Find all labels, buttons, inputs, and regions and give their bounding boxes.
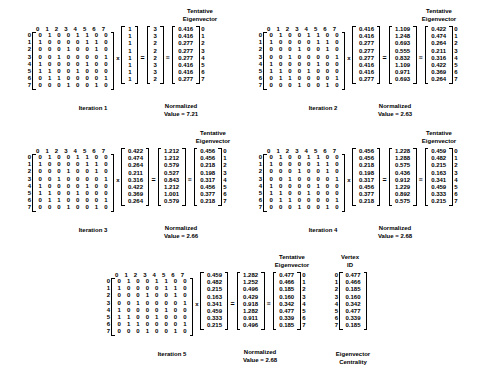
iteration-5-label: Iteration 5 bbox=[137, 351, 207, 358]
product-vector-cell: 1.248 bbox=[392, 33, 413, 40]
input-vector-5: 0.4590.4820.2150.1630.3410.4590.3330.215 bbox=[200, 272, 228, 330]
matrix-row-label: 0 bbox=[103, 278, 110, 285]
final-centrality-value: 0.466 bbox=[343, 279, 364, 286]
matrix-cell: 1 bbox=[267, 61, 276, 68]
input-vector-cell: 0.456 bbox=[356, 148, 377, 155]
normalized-amount-1: Value = 7.21 bbox=[148, 111, 214, 119]
matrix-cell: 0 bbox=[323, 61, 332, 68]
final-centrality-value: 0.342 bbox=[343, 301, 364, 308]
matrix-cell: 1 bbox=[161, 278, 170, 285]
te-header-line1-5: Tentative bbox=[261, 254, 323, 262]
tentative-eigenvector-cell: 0.277 bbox=[175, 55, 196, 62]
product-vector-cell: 2 bbox=[150, 48, 160, 55]
product-vector-cell: 0.429 bbox=[240, 294, 261, 301]
matrix-cell: 1 bbox=[92, 46, 101, 53]
tentative-eigenvector-cells-5: 0.4770.4660.1850.1600.3420.4770.3390.185 bbox=[276, 272, 297, 330]
adjacency-matrix-5: 01234567 01234567 0100110010000110000100… bbox=[103, 272, 193, 336]
matrix-cell: 0 bbox=[124, 328, 133, 335]
tentative-eigenvector-cell: 0.185 bbox=[276, 322, 297, 329]
adjacency-matrix-4: 01234567 01234567 0100110010000110000100… bbox=[255, 148, 345, 212]
matrix-cell: 1 bbox=[124, 314, 133, 321]
matrix-cell: 0 bbox=[285, 204, 294, 211]
matrix-cell: 0 bbox=[101, 46, 110, 53]
matrix-cell: 0 bbox=[64, 75, 73, 82]
matrix-row: 01001100 bbox=[267, 154, 342, 161]
matrix-row: 10000100 bbox=[267, 183, 342, 190]
approx-operator-4: ≡ bbox=[417, 176, 425, 183]
matrix-cell: 0 bbox=[73, 82, 82, 89]
matrix-cell: 0 bbox=[73, 161, 82, 168]
matrix-cell: 0 bbox=[304, 183, 313, 190]
matrix-cell: 0 bbox=[45, 46, 54, 53]
matrix-cell: 0 bbox=[323, 197, 332, 204]
matrix-cell: 0 bbox=[124, 292, 133, 299]
matrix-cell: 1 bbox=[313, 39, 322, 46]
matrix-row-label: 7 bbox=[24, 204, 31, 211]
matrix-row: 10000100 bbox=[36, 183, 111, 190]
matrix-cell: 0 bbox=[115, 328, 124, 335]
matrix-cell: 1 bbox=[285, 176, 294, 183]
matrix-cell: 0 bbox=[124, 307, 133, 314]
matrix-cell: 1 bbox=[332, 75, 341, 82]
input-vector-cell: 0.316 bbox=[125, 177, 146, 184]
tentative-eigenvector-cell: 0.456 bbox=[197, 184, 218, 191]
tentative-eigenvector-index: 2 bbox=[454, 40, 460, 47]
tentative-eigenvector-index: 5 bbox=[302, 308, 308, 315]
product-vector-3: 1.2121.2120.5790.5270.8431.2121.0010.579 bbox=[158, 148, 186, 206]
matrix-cells-3: 0100110010000110000100100010000110000100… bbox=[36, 154, 111, 212]
product-vector-cell: 0.971 bbox=[392, 69, 413, 76]
matrix-cell: 1 bbox=[313, 61, 322, 68]
matrix-cell: 0 bbox=[304, 204, 313, 211]
product-vector-cell: 0.579 bbox=[161, 162, 182, 169]
matrix-cell: 1 bbox=[73, 190, 82, 197]
matrix-cell: 0 bbox=[313, 75, 322, 82]
tentative-eigenvector-index: 4 bbox=[223, 177, 229, 184]
matrix-row-label: 2 bbox=[103, 292, 110, 299]
input-vector-cell: 1 bbox=[125, 33, 135, 40]
matrix-cell: 1 bbox=[115, 307, 124, 314]
matrix-row-label: 2 bbox=[255, 46, 262, 53]
matrix-row: 11001000 bbox=[36, 190, 111, 197]
matrix-cell: 0 bbox=[73, 46, 82, 53]
matrix-cell: 1 bbox=[73, 68, 82, 75]
matrix-cell: 1 bbox=[332, 54, 341, 61]
input-vector-cells-2: 0.4160.4160.2770.2770.2770.4160.4160.277 bbox=[356, 26, 377, 84]
matrix-cell: 0 bbox=[276, 183, 285, 190]
tentative-eigenvector-cells-4: 0.4590.4820.2150.1630.3410.4590.3330.215 bbox=[428, 148, 449, 206]
matrix-cell: 0 bbox=[124, 300, 133, 307]
matrix-cell: 0 bbox=[36, 75, 45, 82]
matrix-cell: 0 bbox=[101, 190, 110, 197]
iteration-1-equation: 01234567 01234567 0100110010000110000100… bbox=[24, 26, 207, 90]
matrix-cell: 0 bbox=[304, 82, 313, 89]
matrix-cell: 0 bbox=[54, 168, 63, 175]
matrix-cell: 1 bbox=[36, 39, 45, 46]
matrix-cell: 0 bbox=[92, 32, 101, 39]
tentative-eigenvector-index: 7 bbox=[201, 76, 207, 83]
matrix-cell: 1 bbox=[171, 292, 180, 299]
matrix-row-label: 2 bbox=[24, 168, 31, 175]
matrix-cell: 1 bbox=[36, 61, 45, 68]
matrix-cell: 1 bbox=[124, 278, 133, 285]
matrix-cell: 0 bbox=[267, 197, 276, 204]
matrix-cell: 0 bbox=[143, 314, 152, 321]
matrix-cell: 0 bbox=[267, 32, 276, 39]
matrix-cell: 0 bbox=[304, 176, 313, 183]
matrix-cell: 0 bbox=[92, 183, 101, 190]
tentative-eigenvector-cell: 0.316 bbox=[428, 55, 449, 62]
matrix-cell: 0 bbox=[332, 168, 341, 175]
matrix-cell: 0 bbox=[143, 285, 152, 292]
product-vector-cell: 0.843 bbox=[161, 177, 182, 184]
matrix-cell: 1 bbox=[36, 68, 45, 75]
vertex-header-line1: Vertex bbox=[330, 254, 370, 262]
matrix-cell: 1 bbox=[36, 161, 45, 168]
matrix-cell: 1 bbox=[143, 292, 152, 299]
matrix-cell: 0 bbox=[295, 61, 304, 68]
matrix-cell: 0 bbox=[323, 154, 332, 161]
normalized-amount-2: Value = 2.63 bbox=[362, 111, 428, 119]
tentative-eigenvector-index: 7 bbox=[223, 198, 229, 205]
matrix-cell: 1 bbox=[304, 68, 313, 75]
matrix-cell: 0 bbox=[332, 204, 341, 211]
final-centrality-value: 0.477 bbox=[343, 272, 364, 279]
tentative-eigenvector-index: 2 bbox=[302, 286, 308, 293]
multiply-operator-1: x bbox=[114, 55, 121, 61]
